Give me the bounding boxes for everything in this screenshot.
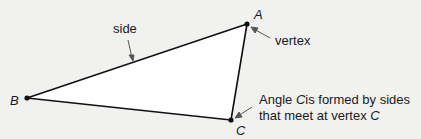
vertex-b-dot bbox=[24, 95, 29, 100]
vertex-c-label: C bbox=[236, 123, 246, 138]
vertex-b-label: B bbox=[10, 93, 19, 108]
vertex-annotation: vertex bbox=[275, 33, 311, 48]
vertex-c-dot bbox=[228, 117, 233, 122]
angle-annotation-line2: that meet at vertex C bbox=[259, 108, 380, 123]
angle-annotation-line1: Angle Cis formed by sides bbox=[259, 92, 411, 107]
side-label: side bbox=[113, 21, 137, 36]
vertex-a-dot bbox=[244, 21, 249, 26]
vertex-arrow bbox=[251, 27, 270, 38]
triangle-diagram: B A C side vertex Angle Cis formed by si… bbox=[0, 0, 421, 139]
triangle bbox=[27, 24, 247, 120]
vertex-a-label: A bbox=[253, 7, 263, 22]
angle-arrow bbox=[235, 107, 252, 118]
side-arrow bbox=[128, 40, 134, 61]
